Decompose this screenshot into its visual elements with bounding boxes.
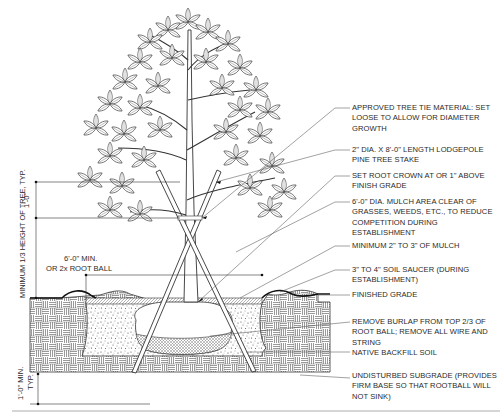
callout-tree-tie: APPROVED TREE TIE MATERIAL: SET LOOSE TO… — [352, 103, 502, 134]
callout-subgrade: UNDISTURBED SUBGRADE (PROVIDES FIRM BASE… — [352, 371, 502, 402]
dim-subgrade-depth-1: 1'-0" MIN. — [16, 367, 26, 400]
dim-pit-width-2: OR 2x ROOT BALL — [46, 264, 112, 274]
root-ball — [135, 302, 232, 355]
dim-pit-width-1: 6'-0" MIN. — [64, 254, 97, 264]
callout-finished-grade: FINISHED GRADE — [352, 290, 502, 300]
dim-subgrade-depth-2: TYP. — [26, 374, 36, 390]
callout-soil-saucer: 3" TO 4" SOIL SAUCER (DURING ESTABLISHME… — [352, 265, 482, 286]
callout-root-crown: SET ROOT CROWN AT OR 1" ABOVE FINISH GRA… — [352, 171, 492, 192]
callout-backfill: NATIVE BACKFILL SOIL — [352, 348, 502, 358]
callout-mulch-depth: MINIMUM 2" TO 3" OF MULCH — [352, 241, 502, 251]
callout-stake: 2" DIA. x 8'-0" LENGTH LODGEPOLE PINE TR… — [352, 145, 487, 166]
callout-burlap: REMOVE BURLAP FROM TOP 2/3 OF ROOT BALL;… — [352, 317, 502, 348]
dim-tie-spacing: 1'-0" — [22, 193, 32, 208]
dim-stake-height: MINIMUM 1/3 HEIGHT OF TREE, TYP. — [18, 168, 28, 298]
callout-mulch-area: 6'-0" DIA. MULCH AREA CLEAR OF GRASSES, … — [352, 197, 502, 238]
tree-trunk — [184, 30, 198, 302]
